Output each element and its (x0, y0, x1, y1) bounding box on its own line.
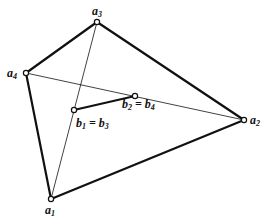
edge-a1-a2 (51, 120, 244, 199)
diagram-canvas: a1a2a3a4b1 = b3b2 = b4 (0, 0, 269, 224)
label-b1b3: b1 = b3 (76, 116, 109, 131)
edge-a4-a1 (26, 73, 51, 199)
point-a1 (48, 196, 53, 201)
point-a3 (94, 19, 99, 24)
point-a2 (241, 117, 246, 122)
edge-a3-a2 (97, 22, 244, 120)
vertex-labels: a1a2a3a4b1 = b3b2 = b4 (7, 4, 260, 218)
point-a4 (23, 70, 28, 75)
edge-a3-a4 (26, 22, 97, 73)
point-b1b3 (71, 107, 76, 112)
label-b2b4: b2 = b4 (122, 97, 155, 112)
label-a3: a3 (92, 4, 102, 19)
label-a2: a2 (250, 113, 260, 128)
label-a4: a4 (7, 66, 17, 81)
label-a1: a1 (45, 203, 55, 218)
